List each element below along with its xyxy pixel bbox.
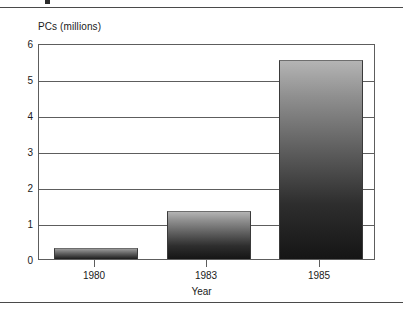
y-axis-tick-label: 2 — [5, 183, 33, 194]
x-axis-tick-label: 1983 — [176, 270, 236, 281]
bar-1985 — [279, 60, 363, 259]
y-axis-tick-label: 4 — [5, 111, 33, 122]
plot-area — [38, 44, 375, 260]
x-axis-tick — [206, 260, 207, 267]
bar-chart-figure: PCs (millions) 0123456 198019831985 Year — [0, 8, 403, 302]
y-axis-tick-label: 3 — [5, 147, 33, 158]
y-axis-tick-label: 5 — [5, 75, 33, 86]
y-axis-tick-label: 0 — [5, 255, 33, 266]
clipped-text-fragment — [45, 0, 50, 4]
bar-1980 — [54, 248, 138, 259]
y-axis-tick-labels: 0123456 — [0, 44, 33, 260]
x-axis-tick-label: 1980 — [64, 270, 124, 281]
y-axis-tick-label: 6 — [5, 39, 33, 50]
x-axis-tick — [319, 260, 320, 267]
x-axis-tick-label: 1985 — [289, 270, 349, 281]
y-axis-tick-label: 1 — [5, 219, 33, 230]
x-axis-title: Year — [0, 286, 403, 297]
x-axis-tick — [94, 260, 95, 267]
y-axis-title: PCs (millions) — [38, 21, 101, 32]
page-rule-bottom — [0, 302, 403, 303]
bar-series — [39, 45, 374, 259]
bar-1983 — [167, 211, 251, 259]
